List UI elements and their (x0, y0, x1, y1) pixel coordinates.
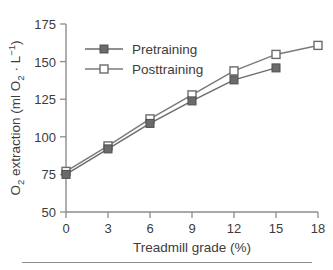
series-pretraining (62, 64, 280, 178)
x-axis-ticks (66, 212, 318, 218)
y-ticklabel-100: 100 (34, 130, 56, 145)
x-ticklabel-0: 0 (62, 221, 69, 236)
x-ticklabel-12: 12 (227, 221, 241, 236)
series-pretraining-line (66, 68, 276, 174)
open-square-icon (100, 65, 108, 73)
x-axis-label: Treadmill grade (%) (133, 240, 251, 255)
y-ticklabel-75: 75 (42, 167, 56, 182)
legend-item-posttraining: Posttraining (85, 62, 203, 77)
y-ticklabel-150: 150 (34, 55, 56, 70)
x-ticklabel-18: 18 (311, 221, 325, 236)
oxygen-extraction-line-chart: 175 150 125 100 75 50 0 3 6 9 12 15 18 (0, 0, 333, 270)
datapoint-post-15 (272, 50, 280, 58)
x-ticklabel-15: 15 (269, 221, 283, 236)
y-axis-tick-labels: 175 150 125 100 75 50 (34, 17, 56, 220)
y-label-mid: extraction (ml O (8, 81, 23, 180)
y-axis-label: O2 extraction (ml O2 · L−1) (6, 41, 26, 196)
svg-text:O2 extraction (ml O2 · L−1): O2 extraction (ml O2 · L−1) (6, 41, 26, 196)
y-axis-ticks (60, 24, 66, 212)
legend-label-posttraining: Posttraining (132, 62, 203, 77)
x-axis-tick-labels: 0 3 6 9 12 15 18 (62, 221, 325, 236)
figure-bottom-divider (22, 262, 312, 263)
y-ticklabel-125: 125 (34, 92, 56, 107)
y-ticklabel-50: 50 (42, 205, 56, 220)
datapoint-post-18 (314, 41, 322, 49)
legend-label-pretraining: Pretraining (132, 42, 197, 57)
x-ticklabel-9: 9 (188, 221, 195, 236)
chart-figure: 175 150 125 100 75 50 0 3 6 9 12 15 18 (0, 0, 333, 270)
y-label-prefix: O (8, 185, 23, 196)
y-label-sup: −1 (6, 45, 17, 56)
datapoint-post-12 (230, 67, 238, 75)
filled-square-icon (100, 45, 108, 53)
datapoint-pre-0 (62, 170, 70, 178)
series-pretraining-markers (62, 64, 280, 178)
y-ticklabel-175: 175 (34, 17, 56, 32)
datapoint-pre-9 (188, 97, 196, 105)
x-ticklabel-6: 6 (146, 221, 153, 236)
legend-item-pretraining: Pretraining (85, 42, 197, 57)
y-label-mid-2: · L (8, 55, 23, 75)
chart-legend: Pretraining Posttraining (85, 42, 203, 77)
y-label-suffix: ) (8, 41, 23, 46)
x-ticklabel-3: 3 (104, 221, 111, 236)
datapoint-pre-12 (230, 76, 238, 84)
datapoint-pre-3 (104, 145, 112, 153)
datapoint-pre-15 (272, 64, 280, 72)
datapoint-pre-6 (146, 119, 154, 127)
